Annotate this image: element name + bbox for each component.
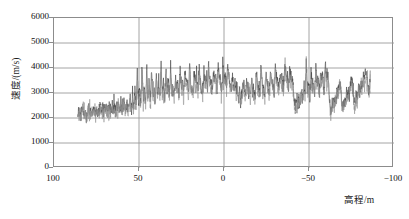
y-tick-label: 4000 [3,62,49,71]
y-tick-label: 1000 [3,137,49,146]
speed-vs-elevation-chart: 速度/(m/s) 0100020003000400050006000 10050… [0,0,409,219]
x-tick-mark [308,167,309,171]
y-tick-mark [49,167,53,168]
plot-svg [54,18,394,168]
y-tick-label: 6000 [3,12,49,21]
x-axis-title: 高程/m [344,192,374,206]
y-tick-mark [49,67,53,68]
x-tick-label: −100 [363,174,409,183]
y-tick-label: 3000 [3,87,49,96]
x-tick-label: 0 [193,174,253,183]
x-tick-mark [223,167,224,171]
x-tick-label: 50 [108,174,168,183]
x-axis-tick-labels: 100500−50−100 [0,174,409,188]
y-tick-label: 5000 [3,37,49,46]
y-tick-mark [49,17,53,18]
y-tick-mark [49,117,53,118]
x-tick-mark [138,167,139,171]
x-tick-label: −50 [278,174,338,183]
y-tick-label: 2000 [3,112,49,121]
y-tick-mark [49,42,53,43]
x-tick-label: 100 [23,174,83,183]
grid-lines [54,18,394,168]
plot-area [53,17,393,167]
y-tick-mark [49,142,53,143]
y-tick-label: 0 [3,162,49,171]
y-tick-mark [49,92,53,93]
